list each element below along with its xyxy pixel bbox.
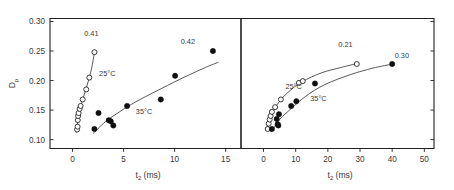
fit-curve: [271, 64, 393, 132]
data-point-filled: [172, 73, 177, 78]
left-panel: 0510150.100.150.200.250.30t2(ms)Dp25°C0.…: [7, 17, 241, 181]
x-axis-title: t2(ms): [136, 170, 161, 182]
x-tick-label: 15: [221, 155, 231, 164]
endpoint-value-label: 0.21: [338, 40, 352, 49]
data-point-open: [78, 103, 83, 108]
data-point-filled: [96, 110, 101, 115]
x-tick-label: 5: [121, 155, 126, 164]
figure-container: 0510150.100.150.200.250.30t2(ms)Dp25°C0.…: [0, 0, 454, 190]
data-point-filled: [389, 61, 394, 66]
y-tick-label: 0.30: [29, 17, 45, 26]
series-temperature-label: 25°C: [99, 69, 116, 78]
y-tick-label: 0.25: [29, 47, 45, 56]
x-tick-label: 10: [291, 155, 301, 164]
data-point-open: [80, 97, 85, 102]
y-axis-title-sub: p: [12, 78, 19, 82]
data-point-open: [92, 50, 97, 55]
right-panel: 01020304050t2(ms)25°C0.2135°C0.30: [241, 19, 434, 182]
data-point-filled: [111, 123, 116, 128]
x-axis-title: t2(ms): [328, 170, 353, 182]
data-point-filled: [294, 99, 299, 104]
data-point-open: [273, 105, 278, 110]
endpoint-value-label: 0.42: [181, 37, 195, 46]
y-tick-label: 0.10: [29, 136, 45, 145]
series-open-circle: 25°C0.41: [75, 29, 117, 133]
series-filled-circle: 35°C0.42: [92, 37, 219, 134]
data-point-filled: [269, 126, 274, 131]
x-axis-title-unit: (ms): [144, 170, 161, 180]
x-axis-title-unit: (ms): [336, 170, 353, 180]
series-temperature-label: 35°C: [136, 107, 153, 116]
x-tick-label: 30: [355, 155, 365, 164]
x-tick-label: 0: [261, 155, 266, 164]
data-point-filled: [288, 103, 293, 108]
series-temperature-label: 35°C: [310, 94, 327, 103]
data-point-open: [75, 124, 80, 129]
y-axis-title: Dp: [7, 78, 19, 88]
series-temperature-label: 25°C: [285, 82, 302, 91]
data-point-open: [354, 62, 359, 67]
endpoint-value-label: 0.30: [395, 51, 409, 60]
x-tick-label: 0: [70, 155, 75, 164]
y-tick-label: 0.20: [29, 77, 45, 86]
y-tick-label: 0.15: [29, 106, 45, 115]
data-point-open: [84, 87, 89, 92]
x-tick-label: 20: [323, 155, 333, 164]
data-point-open: [87, 75, 92, 80]
data-point-open: [269, 109, 274, 114]
data-point-filled: [276, 123, 281, 128]
data-point-filled: [158, 97, 163, 102]
data-point-filled: [210, 48, 215, 53]
data-point-filled: [276, 112, 281, 117]
x-tick-label: 40: [388, 155, 398, 164]
x-tick-label: 50: [420, 155, 430, 164]
data-point-open: [278, 97, 283, 102]
data-point-filled: [92, 126, 97, 131]
series-filled-circle: 35°C0.30: [269, 51, 409, 132]
data-point-filled: [124, 103, 129, 108]
x-axis-title-sub: 2: [330, 174, 334, 181]
endpoint-value-label: 0.41: [84, 29, 98, 38]
x-axis-title-sub: 2: [138, 174, 142, 181]
data-point-filled: [312, 81, 317, 86]
x-tick-label: 10: [170, 155, 180, 164]
two-panel-scatter-chart: 0510150.100.150.200.250.30t2(ms)Dp25°C0.…: [0, 0, 454, 190]
